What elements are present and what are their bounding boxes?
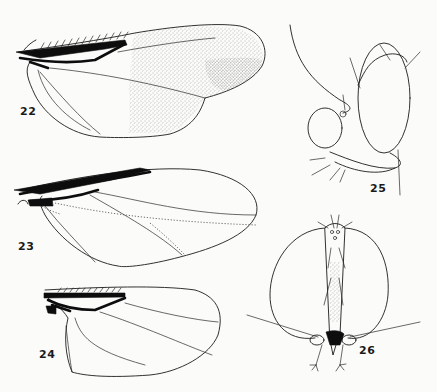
plate-drawings	[0, 0, 437, 392]
figure-label-26: 26	[359, 344, 375, 357]
figure-label-23: 23	[18, 240, 34, 253]
figure-plate: 22 23 24 25 26	[0, 0, 437, 392]
wing-figure-23	[14, 168, 257, 267]
wing-figure-24	[44, 287, 220, 376]
wing-figure-22	[16, 25, 265, 138]
head-figure-25	[290, 25, 420, 195]
figure-label-22: 22	[20, 105, 36, 118]
head-figure-26	[247, 215, 420, 371]
figure-label-25: 25	[370, 182, 386, 195]
figure-label-24: 24	[39, 348, 55, 361]
